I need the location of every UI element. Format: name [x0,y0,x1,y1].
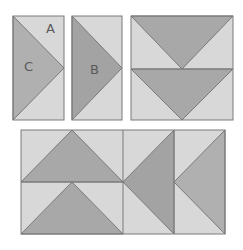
two-geese-unit [131,16,233,120]
piece-ac: A C [13,16,64,120]
label-b: B [90,62,99,77]
quilt-diagram: A C B [0,0,243,250]
piece-b: B [72,16,122,120]
label-a: A [46,21,55,36]
assembled-block [21,130,225,234]
label-c: C [24,59,33,74]
